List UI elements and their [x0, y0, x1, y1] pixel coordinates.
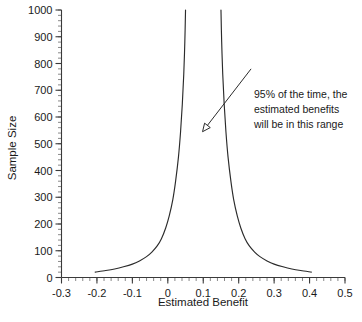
y-tick-label: 900	[34, 31, 52, 43]
y-tick-label: 500	[34, 138, 52, 150]
y-axis-title: Sample Size	[6, 116, 18, 181]
chart-background	[0, 0, 362, 322]
x-axis-title: Estimated Benefit	[158, 296, 249, 308]
annotation-line-3: will be in this range	[253, 118, 343, 130]
x-tick-label: -0.1	[123, 287, 142, 299]
x-tick-label: 0.4	[302, 287, 317, 299]
y-tick-label: 300	[34, 191, 52, 203]
chart-figure: 01002003004005006007008009001000 -0.3-0.…	[0, 0, 362, 322]
x-tick-label: 0.3	[266, 287, 281, 299]
y-tick-label: 0	[46, 272, 52, 284]
y-tick-label: 600	[34, 111, 52, 123]
y-tick-label: 100	[34, 245, 52, 257]
annotation-line-1: 95% of the time, the	[254, 88, 348, 100]
x-tick-label: -0.2	[87, 287, 106, 299]
y-tick-label: 800	[34, 58, 52, 70]
x-tick-label: -0.3	[52, 287, 71, 299]
y-tick-label: 400	[34, 165, 52, 177]
x-tick-label: 0.5	[337, 287, 352, 299]
y-tick-label: 700	[34, 84, 52, 96]
annotation-line-2: estimated benefits	[254, 103, 339, 115]
y-tick-label: 200	[34, 218, 52, 230]
y-tick-label: 1000	[28, 4, 52, 16]
funnel-plot-svg: 01002003004005006007008009001000 -0.3-0.…	[0, 0, 362, 322]
